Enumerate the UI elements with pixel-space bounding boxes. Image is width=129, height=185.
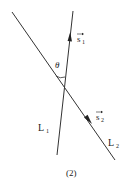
- arrow-s1-icon: [68, 32, 72, 42]
- svg-text:L: L: [108, 137, 114, 148]
- angle-theta-label: θ: [55, 60, 60, 70]
- line-l1-label: L 1: [38, 122, 49, 134]
- svg-text:1: 1: [82, 39, 85, 45]
- svg-text:s: s: [96, 112, 100, 122]
- arrow-s2-icon: [84, 115, 92, 124]
- svg-text:1: 1: [46, 128, 49, 134]
- intersecting-lines-diagram: θ s 1 s 2 L 1 L 2 (2): [0, 0, 129, 185]
- svg-text:2: 2: [101, 117, 104, 123]
- line-l2: [12, 12, 115, 160]
- svg-text:s: s: [77, 34, 81, 44]
- figure-caption: (2): [66, 168, 77, 178]
- vector-s2-label: s 2: [96, 111, 104, 123]
- svg-text:L: L: [38, 122, 44, 133]
- line-l1: [57, 11, 73, 155]
- line-l2-label: L 2: [108, 137, 119, 149]
- svg-text:2: 2: [116, 143, 119, 149]
- vector-s1-label: s 1: [77, 33, 85, 45]
